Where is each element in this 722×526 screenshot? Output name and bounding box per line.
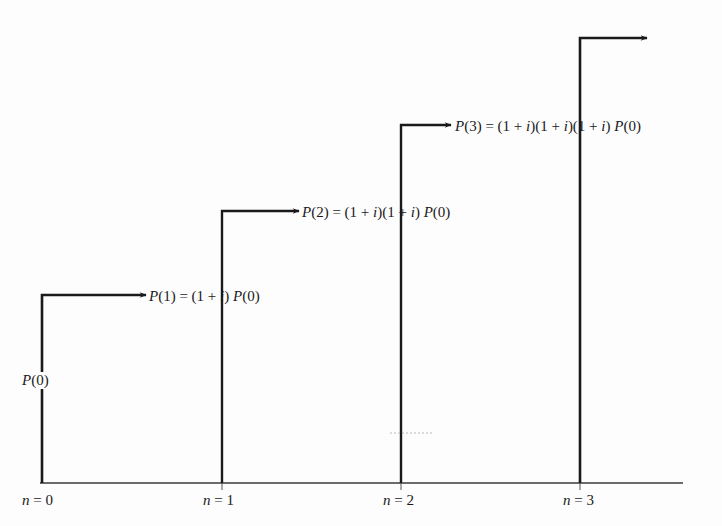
n2-value: 2 [406, 492, 414, 508]
p1-lhs: (1) = (1 + [158, 288, 220, 304]
axis-label-n1: n = 1 [203, 493, 234, 508]
p3-rhs: (0) [623, 118, 641, 134]
axis-label-n2: n = 2 [383, 493, 414, 508]
p2-lhs: (2) = (1 + [311, 204, 373, 220]
label-p0-symbol: P [22, 372, 31, 388]
p3-mid1: )(1 + [530, 118, 563, 134]
n3-var: n [563, 492, 571, 508]
diagram-graphics [0, 0, 722, 526]
p3-mid3: ) [606, 118, 615, 134]
n1-var: n [203, 492, 211, 508]
label-p1-formula: P(1) = (1 + i) P(0) [149, 289, 260, 304]
p2-p-symbol: P [424, 204, 433, 220]
label-p2-formula: P(2) = (1 + i)(1 + i) P(0) [302, 205, 450, 220]
p2-rhs: (0) [433, 204, 451, 220]
step-3-bracket [580, 38, 647, 483]
n3-value: 3 [586, 492, 594, 508]
axis-label-n3: n = 3 [563, 493, 594, 508]
n0-eq: = [30, 492, 46, 508]
step-1-bracket [222, 211, 299, 483]
p3-mid2: )(1 + [568, 118, 601, 134]
n0-value: 0 [45, 492, 53, 508]
p2-symbol: P [302, 204, 311, 220]
p3-symbol: P [455, 118, 464, 134]
p2-mid2: ) [415, 204, 424, 220]
n0-var: n [22, 492, 30, 508]
n1-eq: = [211, 492, 227, 508]
label-p3-formula: P(3) = (1 + i)(1 + i)(1 + i) P(0) [455, 119, 641, 134]
p1-p-symbol: P [233, 288, 242, 304]
label-p0: P(0) [22, 372, 49, 389]
n1-value: 1 [226, 492, 234, 508]
p3-lhs: (3) = (1 + [464, 118, 526, 134]
compound-interest-diagram: P(0) P(1) = (1 + i) P(0) P(2) = (1 + i)(… [0, 0, 722, 526]
step-0-bracket [42, 295, 146, 483]
n2-eq: = [391, 492, 407, 508]
p1-rhs: (0) [242, 288, 260, 304]
label-p0-arg: (0) [31, 372, 49, 388]
n3-eq: = [571, 492, 587, 508]
p1-symbol: P [149, 288, 158, 304]
n2-var: n [383, 492, 391, 508]
step-2-bracket [401, 125, 451, 483]
p2-mid1: )(1 + [377, 204, 410, 220]
p1-mid: ) [224, 288, 233, 304]
axis-label-n0: n = 0 [22, 493, 53, 508]
